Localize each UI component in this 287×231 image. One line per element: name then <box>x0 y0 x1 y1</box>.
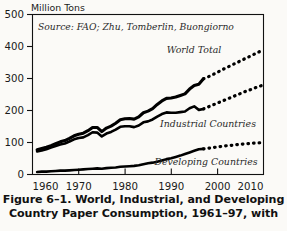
y-label-200: 200 <box>5 105 24 116</box>
figure-caption: Figure 6–1. World, Industrial, and Devel… <box>0 193 287 221</box>
y-label-500: 500 <box>5 9 24 20</box>
series-label-industrial-countries: Industrial Countries <box>159 118 256 129</box>
scanned-page: Million Tons 500 400 300 200 100 0 1960 <box>0 0 287 231</box>
series-label-world-total: World Total <box>167 44 222 55</box>
x-label-2000: 2000 <box>205 181 231 192</box>
y-label-400: 400 <box>5 41 24 52</box>
y-axis-title: Million Tons <box>31 2 85 13</box>
series-line-world-total <box>37 79 203 150</box>
paper-consumption-line-chart: Million Tons 500 400 300 200 100 0 1960 <box>0 0 287 196</box>
chart-figure: Million Tons 500 400 300 200 100 0 1960 <box>0 0 287 196</box>
source-note: Source: FAO; Zhu, Tomberlin, Buongiorno <box>38 21 234 32</box>
x-label-1990: 1990 <box>158 181 184 192</box>
x-label-1980: 1980 <box>112 181 138 192</box>
series-label-developing-countries: Developing Countries <box>153 156 257 167</box>
series-projection-industrial <box>203 85 263 109</box>
x-label-1960: 1960 <box>33 181 59 192</box>
y-label-0: 0 <box>18 169 24 180</box>
x-label-1970: 1970 <box>66 181 92 192</box>
plot-frame <box>33 15 264 175</box>
y-label-300: 300 <box>5 73 24 84</box>
caption-line-2: Country Paper Consumption, 1961–97, with <box>0 207 287 221</box>
x-label-2010: 2010 <box>238 181 264 192</box>
series-projection-developing <box>203 143 263 149</box>
caption-line-1: Figure 6–1. World, Industrial, and Devel… <box>0 193 287 207</box>
y-label-100: 100 <box>5 137 24 148</box>
